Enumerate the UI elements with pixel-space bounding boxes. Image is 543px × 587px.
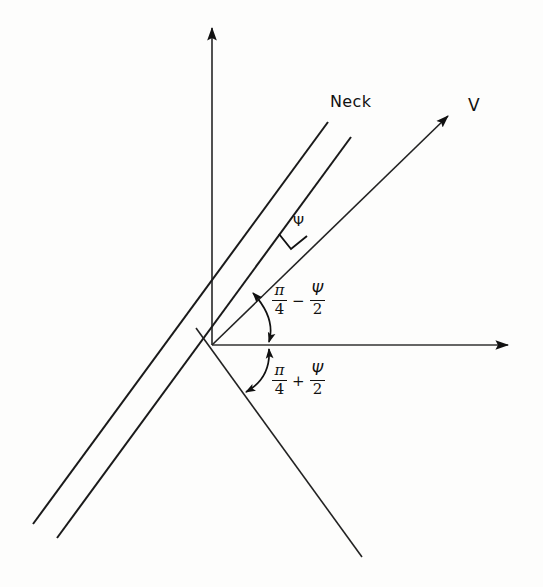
lower-angle-first-fraction: π 4 bbox=[272, 363, 287, 398]
upper-angle-first-fraction: π 4 bbox=[272, 283, 287, 318]
upper-angle-denominator-2: 2 bbox=[311, 301, 325, 318]
velocity-vector-label: V bbox=[468, 95, 480, 115]
lower-angle-arc bbox=[246, 349, 269, 392]
upper-angle-numerator-1: π bbox=[273, 283, 287, 300]
upper-angle-denominator-1: 4 bbox=[273, 301, 287, 318]
neck-band-upper-edge bbox=[33, 122, 328, 524]
lower-angle-numerator-2: Ψ bbox=[310, 363, 326, 380]
psi-angle-label: Ψ bbox=[293, 214, 304, 228]
upper-angle-arc bbox=[253, 293, 271, 342]
lower-angle-denominator-1: 4 bbox=[273, 381, 287, 398]
upper-angle-numerator-2: Ψ bbox=[310, 283, 326, 300]
figure-canvas: Neck V Ψ π 4 − Ψ 2 π 4 + Ψ 2 bbox=[0, 0, 543, 587]
right-angle-marker bbox=[279, 234, 307, 249]
neck-label: Neck bbox=[330, 92, 371, 111]
upper-angle-operator: − bbox=[292, 292, 305, 310]
lower-angle-expression: π 4 + Ψ 2 bbox=[272, 363, 325, 398]
neck-band-lower-edge bbox=[57, 137, 351, 538]
lower-angle-denominator-2: 2 bbox=[311, 381, 325, 398]
upper-angle-second-fraction: Ψ 2 bbox=[310, 283, 326, 318]
lower-angle-numerator-1: π bbox=[273, 363, 287, 380]
lower-angle-operator: + bbox=[292, 372, 305, 390]
lower-angle-second-fraction: Ψ 2 bbox=[310, 363, 326, 398]
upper-angle-expression: π 4 − Ψ 2 bbox=[272, 283, 325, 318]
